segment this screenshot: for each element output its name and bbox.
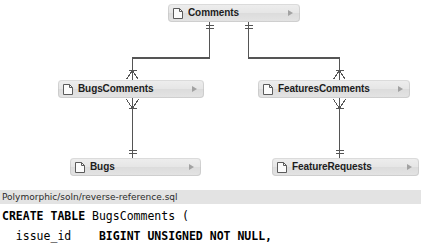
er-diagram: Comments BugsComments xyxy=(0,0,421,188)
cardinality-many-bugscomments-bottom xyxy=(127,100,139,109)
disclosure-triangle-icon[interactable] xyxy=(407,164,412,170)
cardinality-one-comments-right xyxy=(245,26,253,29)
cardinality-many-featurescomments-top xyxy=(334,71,346,80)
disclosure-triangle-icon[interactable] xyxy=(192,86,197,92)
entity-comments[interactable]: Comments xyxy=(168,4,300,22)
code-line: CREATE TABLE BugsComments ( xyxy=(2,206,421,226)
cardinality-one-featurerequests xyxy=(336,151,344,154)
cardinality-many-featurescomments-bottom xyxy=(334,100,346,109)
disclosure-triangle-icon[interactable] xyxy=(288,10,293,16)
entity-label: FeatureRequests xyxy=(292,158,372,176)
document-icon xyxy=(173,8,183,19)
line-comments-bugscomments xyxy=(133,22,210,80)
code-block: CREATE TABLE BugsComments ( issue_id BIG… xyxy=(2,206,421,246)
entity-label: BugsComments xyxy=(78,80,153,98)
disclosure-triangle-icon[interactable] xyxy=(189,164,194,170)
code-text: issue_id xyxy=(2,229,99,243)
disclosure-triangle-icon[interactable] xyxy=(398,86,403,92)
entity-bugscomments[interactable]: BugsComments xyxy=(58,80,204,98)
cardinality-many-bugscomments-top xyxy=(127,71,139,80)
entity-bugs[interactable]: Bugs xyxy=(70,158,201,176)
line-comments-featurescomments xyxy=(249,22,340,80)
code-keyword: BIGINT UNSIGNED NOT NULL, xyxy=(99,229,272,243)
code-keyword: CREATE TABLE xyxy=(2,209,85,223)
document-icon xyxy=(75,162,85,173)
cardinality-one-comments-left xyxy=(206,26,214,29)
entity-label: FeaturesComments xyxy=(278,80,370,98)
code-line: issue_id BIGINT UNSIGNED NOT NULL, xyxy=(2,226,421,246)
page-canvas: Comments BugsComments xyxy=(0,0,421,249)
document-icon xyxy=(277,162,287,173)
entity-featurescomments[interactable]: FeaturesComments xyxy=(258,80,410,98)
entity-featurerequests[interactable]: FeatureRequests xyxy=(272,158,419,176)
code-file-caption: Polymorphic/soln/reverse-reference.sql xyxy=(2,190,178,204)
document-icon xyxy=(63,84,73,95)
entity-label: Comments xyxy=(188,4,239,22)
document-icon xyxy=(263,84,273,95)
entity-label: Bugs xyxy=(90,158,115,176)
code-text: BugsComments ( xyxy=(85,209,189,223)
cardinality-one-bugs xyxy=(129,151,137,154)
